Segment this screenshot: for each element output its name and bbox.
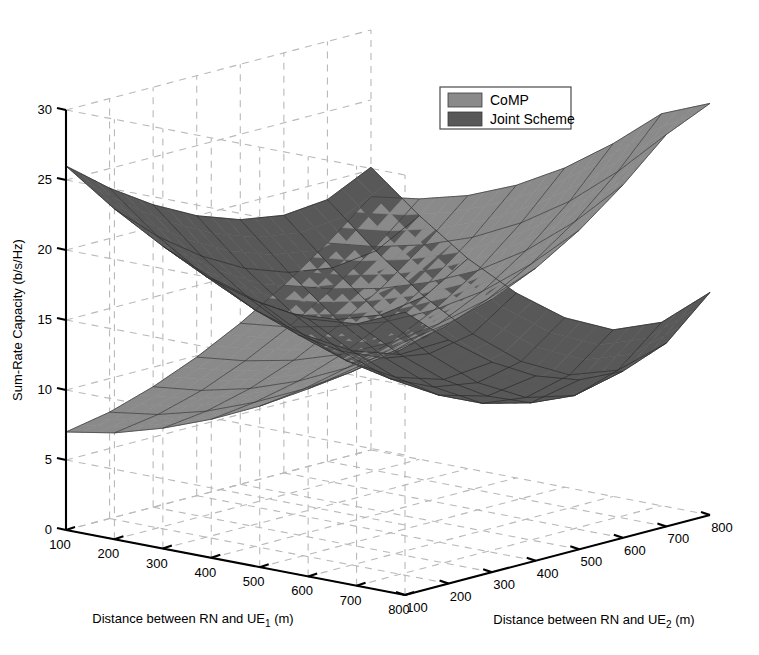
surface-facet <box>66 166 97 188</box>
z-axis-title: Sum-Rate Capacity (b/s/Hz) <box>10 239 25 401</box>
floor-gridline-x <box>308 496 613 576</box>
y-tick-label: 800 <box>711 520 733 535</box>
x-tick-label: 300 <box>146 556 168 571</box>
y-tick-mark <box>527 558 536 561</box>
x-tick-mark <box>163 546 172 549</box>
z-tick-mark <box>57 248 66 250</box>
x-tick-mark <box>357 583 366 586</box>
y-tick-label: 200 <box>450 589 472 604</box>
y-tick-mark <box>614 535 623 538</box>
z-tick-label: 10 <box>38 382 52 397</box>
y-tick-label: 400 <box>537 566 559 581</box>
figure-3d-surface-plot: 0510152025301002003004005006007008001002… <box>0 0 759 655</box>
x-tick-label: 100 <box>49 537 71 552</box>
x-tick-label: 700 <box>340 593 362 608</box>
floor-gridline-y <box>284 473 623 538</box>
surface-plot-canvas: 0510152025301002003004005006007008001002… <box>0 0 759 655</box>
y-tick-label: 700 <box>668 531 690 546</box>
x-tick-mark <box>114 536 123 539</box>
y-tick-label: 100 <box>406 600 428 615</box>
z-tick-label: 20 <box>38 242 52 257</box>
floor-gridline-y <box>197 496 536 561</box>
z-tick-label: 15 <box>38 312 52 327</box>
x-tick-mark <box>260 564 269 567</box>
floor-gridline-x <box>114 459 419 539</box>
y-tick-label: 300 <box>493 577 515 592</box>
floor-gridline-y <box>327 461 666 526</box>
z-tick-mark <box>57 178 66 180</box>
svg-text:Distance between RN and UE2 (m: Distance between RN and UE2 (m) <box>493 612 694 630</box>
z-tick-label: 5 <box>45 452 52 467</box>
plot-legend[interactable]: CoMPJoint Scheme <box>440 87 575 129</box>
z-tick-mark <box>57 528 66 530</box>
wall-left-horizontal <box>66 110 405 175</box>
floor-gridline-x <box>163 469 468 549</box>
x-tick-label: 500 <box>243 574 265 589</box>
wall-right-horizontal <box>66 450 371 530</box>
svg-text:Distance between RN and UE1 (m: Distance between RN and UE1 (m) <box>92 611 293 629</box>
legend-swatch-joint-scheme[interactable] <box>448 112 482 126</box>
surface-facet <box>679 292 710 319</box>
z-tick-label: 30 <box>38 102 52 117</box>
x-axis-title: Distance between RN and UE1 (m) <box>92 611 293 629</box>
y-tick-label: 600 <box>624 543 646 558</box>
floor-gridline-y <box>153 507 492 572</box>
floor-gridline-x <box>260 487 565 567</box>
y-tick-mark <box>483 569 492 572</box>
y-axis-line <box>405 515 710 595</box>
floor-gridline-y <box>110 519 449 584</box>
legend-label-joint-scheme[interactable]: Joint Scheme <box>490 111 575 127</box>
z-tick-mark <box>57 318 66 320</box>
y-tick-label: 500 <box>580 554 602 569</box>
x-axis-line <box>66 530 405 595</box>
z-tick-mark <box>57 458 66 460</box>
y-tick-mark <box>657 523 666 526</box>
legend-label-comp[interactable]: CoMP <box>490 92 529 108</box>
floor-gridline-x <box>357 506 662 586</box>
x-tick-mark <box>66 527 75 530</box>
z-tick-mark <box>57 388 66 390</box>
floor-gridline-y <box>240 484 579 549</box>
z-tick-label: 0 <box>45 522 52 537</box>
x-tick-label: 400 <box>194 565 216 580</box>
x-tick-mark <box>405 592 414 595</box>
floor-gridline-y <box>371 450 710 515</box>
x-tick-mark <box>211 555 220 558</box>
wall-right-horizontal <box>66 30 371 110</box>
wall-right-horizontal <box>66 100 371 180</box>
y-axis-title: Distance between RN and UE2 (m) <box>493 612 694 630</box>
x-tick-label: 200 <box>98 546 120 561</box>
z-tick-mark <box>57 108 66 110</box>
y-tick-mark <box>701 512 710 515</box>
z-tick-label: 25 <box>38 172 52 187</box>
x-tick-label: 600 <box>291 583 313 598</box>
y-tick-mark <box>440 581 449 584</box>
floor-gridline-x <box>211 478 516 558</box>
legend-swatch-comp[interactable] <box>448 93 482 107</box>
wall-left-horizontal <box>66 460 405 525</box>
y-tick-mark <box>570 546 579 549</box>
x-tick-mark <box>308 573 317 576</box>
